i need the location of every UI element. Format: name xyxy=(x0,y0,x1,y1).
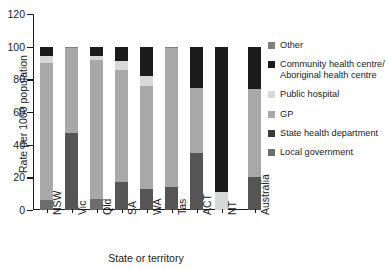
legend-swatch-icon xyxy=(268,111,275,118)
x-tick-label: Qld xyxy=(101,199,113,215)
bar-tas[interactable] xyxy=(165,14,178,210)
bar-sa[interactable] xyxy=(115,14,128,210)
legend-label: Public hospital xyxy=(280,89,339,99)
bar-segment xyxy=(248,47,261,89)
bar-segment xyxy=(65,48,78,133)
legend-item[interactable]: Local government xyxy=(268,147,388,157)
bar-segment xyxy=(115,47,128,62)
bar-segment xyxy=(115,70,128,183)
x-tick-label: NT xyxy=(226,201,238,215)
bar-nt[interactable] xyxy=(215,14,228,210)
x-tick-mark xyxy=(47,209,48,213)
bar-segment xyxy=(90,47,103,57)
bar-segment xyxy=(40,63,53,200)
x-tick-mark xyxy=(197,209,198,213)
bar-segment xyxy=(140,86,153,189)
plot-area xyxy=(33,14,257,210)
bar-segment xyxy=(65,133,78,210)
legend-swatch-icon xyxy=(268,149,275,156)
x-tick-mark xyxy=(97,209,98,213)
y-tick-mark xyxy=(27,210,33,211)
bar-segment xyxy=(140,76,153,86)
legend-label: State health department xyxy=(280,128,378,138)
bar-segment xyxy=(190,88,203,153)
legend-label: GP xyxy=(280,109,293,119)
legend-item[interactable]: Public hospital xyxy=(268,89,388,99)
chart-root: 020406080100120 Rate per 1000 population… xyxy=(0,0,389,269)
x-tick-label: Vic xyxy=(76,201,88,215)
x-tick-label: Tas xyxy=(176,199,188,215)
legend-item[interactable]: GP xyxy=(268,109,388,119)
legend-label: Local government xyxy=(280,147,353,157)
x-tick-label: WA xyxy=(151,198,163,215)
bar-act[interactable] xyxy=(190,14,203,210)
x-tick-label: Australia xyxy=(259,174,271,215)
bar-segment xyxy=(40,47,53,57)
legend: OtherCommunity health centre/ Aboriginal… xyxy=(268,40,388,167)
x-tick-label: NSW xyxy=(51,191,63,216)
bar-segment xyxy=(215,47,228,192)
legend-item[interactable]: Other xyxy=(268,40,388,50)
y-tick-label: 120 xyxy=(7,9,25,19)
bar-segment xyxy=(165,48,178,187)
legend-label: Community health centre/ Aboriginal heal… xyxy=(280,59,385,80)
x-tick-mark xyxy=(255,209,256,213)
legend-swatch-icon xyxy=(268,42,275,49)
x-tick-mark xyxy=(72,209,73,213)
x-tick-mark xyxy=(172,209,173,213)
bar-segment xyxy=(115,61,128,69)
x-tick-mark xyxy=(147,209,148,213)
x-tick-mark xyxy=(122,209,123,213)
y-tick-label: 0 xyxy=(19,205,25,215)
bar-segment xyxy=(248,89,261,177)
x-tick-mark xyxy=(222,209,223,213)
legend-swatch-icon xyxy=(268,130,275,137)
legend-item[interactable]: State health department xyxy=(268,128,388,138)
bar-nsw[interactable] xyxy=(40,14,53,210)
x-tick-label: SA xyxy=(126,201,138,215)
bar-wa[interactable] xyxy=(140,14,153,210)
x-axis-title: State or territory xyxy=(33,252,259,264)
legend-item[interactable]: Community health centre/ Aboriginal heal… xyxy=(268,59,388,80)
y-axis-title: Rate per 1000 population xyxy=(17,29,29,199)
bar-segment xyxy=(90,60,103,199)
bar-segment xyxy=(190,47,203,88)
legend-swatch-icon xyxy=(268,61,275,68)
bar-segment xyxy=(140,47,153,76)
x-tick-label: ACT xyxy=(201,194,213,215)
bar-vic[interactable] xyxy=(65,14,78,210)
legend-swatch-icon xyxy=(268,91,275,98)
legend-label: Other xyxy=(280,40,303,50)
bar-qld[interactable] xyxy=(90,14,103,210)
